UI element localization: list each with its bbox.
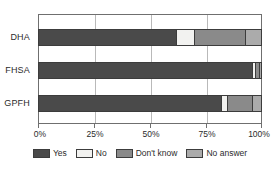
x-tick-25 [94, 124, 95, 128]
stacked-bar-chart: DHA FHSA GPFH 0% [0, 0, 280, 172]
legend-label-no-answer: No answer [206, 148, 247, 158]
legend-item-dont-know: Don't know [116, 148, 178, 158]
bar-segment-gpfh-no [222, 95, 229, 112]
x-tick-0 [38, 124, 39, 128]
bar-segment-dha-no-answer [246, 29, 262, 46]
x-tick-100 [261, 124, 262, 128]
chart-legend: Yes No Don't know No answer [0, 148, 280, 158]
x-axis-labels: 0% 25% 50% 75% 100% [0, 129, 280, 141]
legend-label-no: No [96, 148, 107, 158]
y-axis-labels: DHA FHSA GPFH [0, 14, 34, 124]
x-axis-label-100: 100% [248, 129, 270, 139]
x-axis-label-75: 75% [198, 129, 215, 139]
legend-swatch-no-icon [76, 149, 93, 158]
bar-segment-dha-yes [38, 29, 177, 46]
legend-label-dont-know: Don't know [136, 148, 178, 158]
bar-segment-fhsa-yes [38, 62, 253, 79]
bar-segment-fhsa-no-answer [260, 62, 262, 79]
bar-segment-dha-dont-know [195, 29, 247, 46]
bar-row-gpfh [38, 95, 262, 112]
legend-item-yes: Yes [33, 148, 67, 158]
bar-segment-dha-no [177, 29, 195, 46]
bar-row-dha [38, 29, 262, 46]
y-axis-label-dha: DHA [0, 32, 30, 42]
legend-item-no: No [76, 148, 107, 158]
x-tick-50 [150, 124, 151, 128]
legend-label-yes: Yes [53, 148, 67, 158]
legend-item-no-answer: No answer [186, 148, 247, 158]
x-axis-label-0: 0% [34, 129, 46, 139]
bar-segment-gpfh-yes [38, 95, 222, 112]
bar-row-fhsa [38, 62, 262, 79]
x-axis-label-50: 50% [142, 129, 159, 139]
x-axis-label-25: 25% [86, 129, 103, 139]
y-axis-label-fhsa: FHSA [0, 65, 30, 75]
legend-swatch-dont-know-icon [116, 149, 133, 158]
x-tick-75 [206, 124, 207, 128]
bars-layer [38, 14, 262, 124]
y-axis-label-gpfh: GPFH [0, 98, 30, 108]
bar-segment-gpfh-dont-know [228, 95, 253, 112]
legend-swatch-no-answer-icon [186, 149, 203, 158]
bar-segment-gpfh-no-answer [253, 95, 262, 112]
legend-swatch-yes-icon [33, 149, 50, 158]
